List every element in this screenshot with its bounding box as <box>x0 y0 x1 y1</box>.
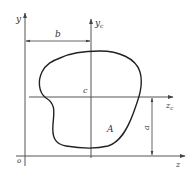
dimension-b-label: b <box>55 29 61 39</box>
origin-label: o <box>17 157 21 165</box>
zc-axis-label: zc <box>165 101 173 111</box>
dimension-a-label: a <box>142 125 151 130</box>
yc-axis-label: yc <box>94 18 104 29</box>
region-outline <box>39 51 141 148</box>
area-label: A <box>106 124 114 134</box>
centroid-label: c <box>83 86 88 95</box>
y-axis-label: y <box>15 14 22 24</box>
parallel-axis-diagram: y yc z zc o c A b a <box>0 0 196 181</box>
z-axis-label: z <box>175 160 181 169</box>
